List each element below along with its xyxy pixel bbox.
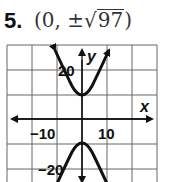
y-axis-label: y [86, 48, 97, 65]
tick-label-20: 20 [58, 62, 75, 79]
tick-label-neg10: −10 [30, 125, 55, 142]
tick-label-10: 10 [98, 125, 115, 142]
tick-label-neg20: −20 [38, 161, 63, 178]
hyperbola-graph: x y 20 −10 10 −20 [0, 0, 173, 182]
x-axis-label: x [139, 98, 150, 115]
